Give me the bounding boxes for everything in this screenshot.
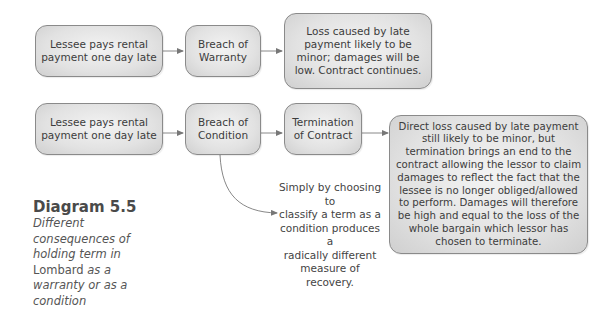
row2-cause-text: Lessee pays rental payment one day late — [41, 116, 157, 142]
caption-line-2: consequences of — [33, 232, 130, 248]
caption-line-5: warranty or as a — [33, 278, 130, 294]
row1-breach-warranty-box: Breach of Warranty — [185, 25, 261, 77]
caption-title: Diagram 5.5 — [33, 198, 136, 216]
caption-line-6: condition — [33, 294, 130, 309]
row1-outcome-text: Loss caused by late payment likely to be… — [295, 25, 422, 77]
row1-breach-text: Breach of Warranty — [198, 38, 248, 64]
row1-outcome-box: Loss caused by late payment likely to be… — [284, 13, 432, 89]
row2-breach-condition-box: Breach of Condition — [185, 103, 261, 155]
row2-outcome-text: Direct loss caused by late payment still… — [396, 121, 581, 249]
annotation-text: Simply by choosing to classify a term as… — [276, 181, 384, 289]
caption-body: Different consequences of holding term i… — [33, 216, 130, 309]
caption-line-4: Lombard as a — [33, 263, 130, 279]
row2-breach-text: Breach of Condition — [198, 116, 248, 142]
caption-line-4-rest: as a — [84, 263, 111, 277]
caption-line-1: Different — [33, 216, 130, 232]
row2-cause-box: Lessee pays rental payment one day late — [35, 103, 163, 155]
caption-case-name: Lombard — [33, 263, 84, 277]
row2-termination-box: Termination of Contract — [284, 103, 362, 155]
caption-line-3: holding term in — [33, 247, 130, 263]
row1-cause-text: Lessee pays rental payment one day late — [41, 38, 157, 64]
row1-cause-box: Lessee pays rental payment one day late — [35, 25, 163, 77]
row2-outcome-box: Direct loss caused by late payment still… — [389, 115, 588, 254]
row2-termination-text: Termination of Contract — [292, 116, 354, 142]
